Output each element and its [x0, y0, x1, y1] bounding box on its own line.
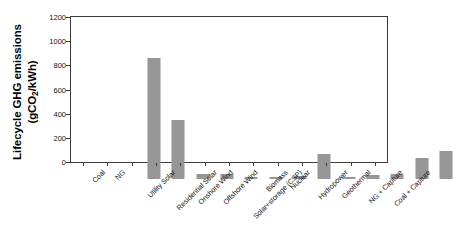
y-tick-label: 400: [26, 109, 66, 118]
y-tick-label: 600: [26, 85, 66, 94]
x-tick-mark: [180, 163, 181, 166]
bar-slot: [385, 34, 409, 179]
bar-slot: [434, 34, 457, 179]
x-tick-mark: [205, 163, 206, 166]
x-category-label: NG: [114, 168, 128, 182]
y-tick-label: 0: [26, 158, 66, 167]
bar[interactable]: [148, 58, 161, 179]
bar-slot: [191, 34, 215, 179]
x-tick-mark: [375, 163, 376, 166]
bar-slot: [264, 34, 288, 179]
bar-slot: [409, 34, 433, 179]
x-tick-mark: [253, 163, 254, 166]
bar-slot: [239, 34, 263, 179]
bar-slot: [361, 34, 385, 179]
bar-slot: [142, 34, 166, 179]
y-tick-label: 1000: [26, 37, 66, 46]
x-tick-mark: [229, 163, 230, 166]
plot-area: [70, 16, 388, 163]
x-tick-mark: [351, 163, 352, 166]
y-axis-title-line1: Lifecycle GHG emissions: [11, 24, 23, 160]
x-tick-mark: [83, 163, 84, 166]
y-tick-label: 800: [26, 61, 66, 70]
bar-slot: [312, 34, 336, 179]
y-tick-label: 1200: [26, 13, 66, 22]
bar[interactable]: [318, 154, 331, 179]
bar[interactable]: [439, 151, 452, 179]
x-tick-mark: [302, 163, 303, 166]
x-category-label-text: NG: [114, 168, 128, 182]
bar-slot: [215, 34, 239, 179]
x-tick-mark: [107, 163, 108, 166]
x-tick-mark: [132, 163, 133, 166]
y-tick-label: 200: [26, 133, 66, 142]
x-category-label-text: Coal: [90, 168, 107, 185]
x-category-label: Coal: [90, 168, 107, 185]
bars-layer: [142, 34, 457, 179]
bar-slot: [336, 34, 360, 179]
x-tick-mark: [156, 163, 157, 166]
bar-slot: [288, 34, 312, 179]
bar-slot: [166, 34, 190, 179]
x-tick-mark: [278, 163, 279, 166]
x-tick-mark: [326, 163, 327, 166]
